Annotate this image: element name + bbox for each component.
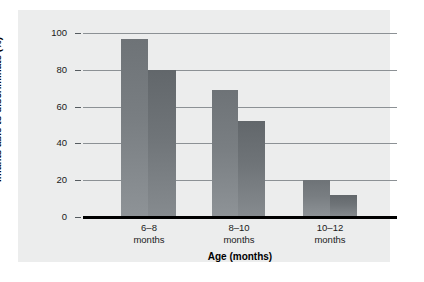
x-tick-label-group-1-unit: months [109,234,189,246]
x-tick-label-group-2-unit: months [199,234,279,246]
x-tick-label-group-3-range: 10–12 [290,222,370,234]
y-tick-label-60: 60 [37,102,67,112]
x-tick-label-group-1: 6–8 months [109,222,189,245]
plot-area: 100 80 60 40 20 0 [83,33,397,217]
y-tick-label-0: 0 [37,212,67,222]
bar-group-3-series-2 [330,195,357,217]
x-tick-label-group-2: 8–10 months [199,222,279,245]
bar-group-1-series-2 [148,70,176,217]
y-axis-title: Infants able to discriminate (%) [0,0,3,225]
tick-dash-0 [75,217,81,218]
x-tick-label-group-1-range: 6–8 [109,222,189,234]
bar-group-3-series-1 [303,180,330,217]
y-tick-label-40: 40 [37,138,67,148]
y-tick-label-100: 100 [37,28,67,38]
x-tick-label-group-3: 10–12 months [290,222,370,245]
chart-figure: Infants able to discriminate (%) 100 80 … [0,0,424,282]
gridline-100 [83,33,397,34]
x-tick-label-group-3-unit: months [290,234,370,246]
x-axis-line [83,216,397,219]
tick-dash-20 [75,180,81,181]
bar-group-2-series-2 [238,121,265,217]
x-axis-title: Age (months) [83,251,397,262]
bar-group-1-series-1 [121,39,148,218]
y-tick-label-20: 20 [37,175,67,185]
bar-group-2-series-1 [212,90,238,217]
x-tick-label-group-2-range: 8–10 [199,222,279,234]
tick-dash-80 [75,70,81,71]
tick-dash-100 [75,33,81,34]
tick-dash-60 [75,107,81,108]
tick-dash-40 [75,143,81,144]
y-tick-label-80: 80 [37,65,67,75]
